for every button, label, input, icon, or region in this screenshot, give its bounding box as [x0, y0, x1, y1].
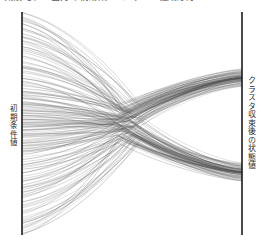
- parallel-coordinates-plot: [0, 0, 263, 246]
- left-axis-label: 初期条件値: [8, 104, 17, 147]
- trajectory-bundle-layer: [22, 12, 242, 234]
- right-axis-label: クラスタ収束後の状態値: [246, 76, 255, 170]
- trajectory-line: [22, 133, 242, 219]
- trajectory-line: [22, 34, 242, 106]
- trajectory-line: [22, 143, 242, 235]
- trajectory-line: [22, 18, 242, 112]
- trajectory-line: [22, 30, 242, 105]
- trajectory-line: [22, 142, 242, 229]
